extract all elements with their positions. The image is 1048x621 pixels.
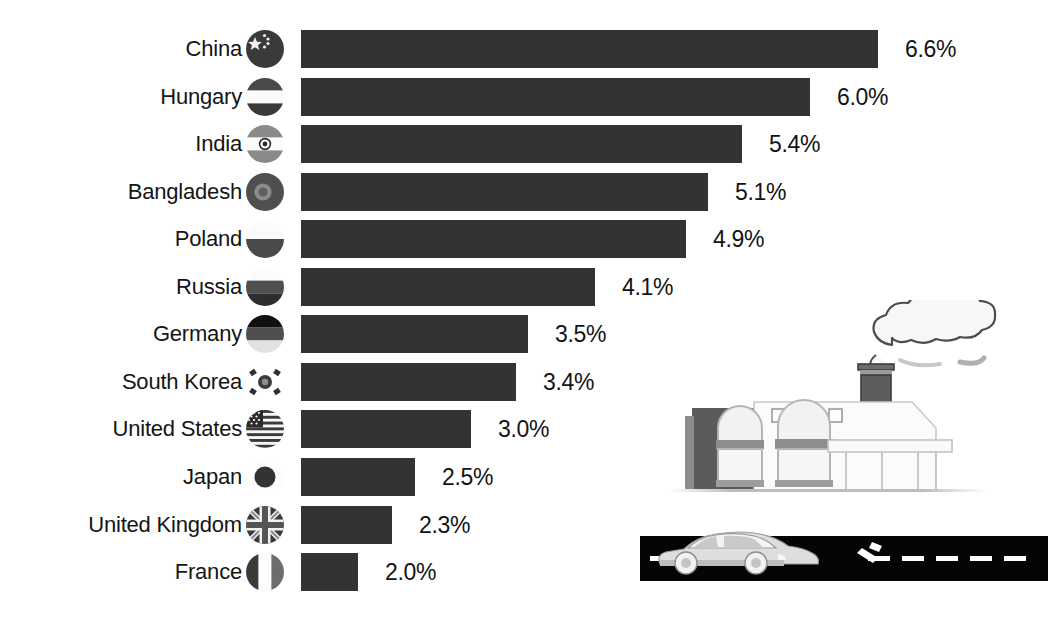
bar [301,220,686,258]
country-label: United Kingdom [88,506,242,544]
car-on-road-illustration [640,512,1048,582]
ground-shadow [668,489,986,492]
country-label: Bangladesh [128,173,242,211]
bar-value-label: 6.6% [905,30,956,68]
bar-value-label: 4.9% [713,220,764,258]
bar [301,125,742,163]
flag-united-states-icon [246,410,284,448]
bar-row: China 6.6% [0,30,1048,68]
bar-row: India 5.4% [0,125,1048,163]
country-label: South Korea [122,363,242,401]
flag-hungary-icon [246,78,284,116]
flag-poland-icon [246,220,284,258]
country-label: Poland [175,220,242,258]
bar [301,173,708,211]
flag-united-kingdom-icon [246,506,284,544]
country-label: Hungary [160,78,242,116]
country-label: Russia [176,268,242,306]
bar-value-label: 5.4% [769,125,820,163]
bar [301,268,595,306]
flag-japan-icon [246,458,284,496]
bar-value-label: 6.0% [837,78,888,116]
bar-row: Poland 4.9% [0,220,1048,258]
bar-value-label: 3.5% [555,315,606,353]
bar [301,410,471,448]
smokestack-icon [858,364,894,405]
flag-india-icon [246,125,284,163]
chart-canvas: China 6.6%Hungary 6.0%India 5.4%Banglade… [0,0,1048,621]
flag-russia-icon [246,268,284,306]
flag-france-icon [246,553,284,591]
country-label: Germany [153,315,242,353]
country-label: Japan [183,458,242,496]
country-label: United States [113,410,242,448]
country-label: India [195,125,242,163]
bar-value-label: 2.3% [419,506,470,544]
bar-value-label: 5.1% [735,173,786,211]
flag-south-korea-icon [246,363,284,401]
flag-china-icon [246,30,284,68]
factory-canopy [828,440,952,452]
flag-bangladesh-icon [246,173,284,211]
bar-value-label: 2.0% [385,553,436,591]
bar-value-label: 3.0% [498,410,549,448]
smoke-cloud-icon [870,300,995,371]
flag-germany-icon [246,315,284,353]
bar [301,458,415,496]
bar-row: Hungary 6.0% [0,78,1048,116]
bar [301,30,878,68]
bar [301,506,392,544]
factory-with-smokestack-illustration [660,300,1048,505]
bar-value-label: 2.5% [442,458,493,496]
country-label: China [186,30,242,68]
bar [301,553,358,591]
bar-row: Bangladesh 5.1% [0,173,1048,211]
country-label: France [175,553,242,591]
bar [301,78,810,116]
bar [301,363,516,401]
bar [301,315,528,353]
bar-value-label: 3.4% [543,363,594,401]
